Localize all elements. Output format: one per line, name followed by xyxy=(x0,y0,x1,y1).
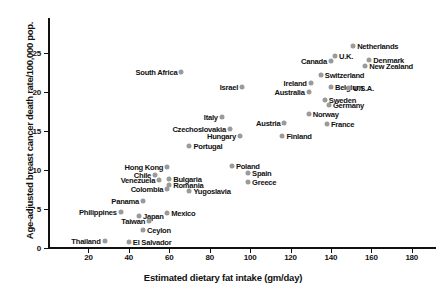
data-point xyxy=(328,59,333,64)
data-point-label: Switzerland xyxy=(325,71,364,80)
x-tick-label: 140 xyxy=(325,253,338,262)
data-point-label: Italy xyxy=(204,113,218,122)
data-point-label: Australia xyxy=(274,88,304,97)
x-tick-label: 120 xyxy=(284,253,297,262)
data-point-label: Philippines xyxy=(79,208,117,217)
data-point xyxy=(140,228,145,233)
data-point xyxy=(157,178,162,183)
data-point xyxy=(308,81,313,86)
data-point-label: Ireland xyxy=(284,79,307,88)
data-point xyxy=(187,188,192,193)
data-point xyxy=(165,210,170,215)
data-point xyxy=(229,163,234,168)
y-axis-line xyxy=(48,18,50,249)
data-point xyxy=(351,43,356,48)
data-point xyxy=(240,85,245,90)
x-tick-label: 40 xyxy=(125,253,134,262)
x-tick-label: 80 xyxy=(205,253,214,262)
data-point xyxy=(237,134,242,139)
data-point-label: Panama xyxy=(111,197,139,206)
data-point-label: Yugoslavia xyxy=(193,186,230,195)
data-point xyxy=(332,53,337,58)
data-point-label: Israel xyxy=(220,83,238,92)
data-point-label: Finland xyxy=(286,132,311,141)
data-point-label: Colombia xyxy=(131,184,164,193)
data-point xyxy=(118,210,123,215)
data-point-label: Portugal xyxy=(193,141,222,150)
data-point-label: Greece xyxy=(252,178,276,187)
data-point-label: South Africa xyxy=(136,68,178,77)
y-tick-mark xyxy=(44,53,48,54)
data-point-label: Mexico xyxy=(171,208,195,217)
data-point xyxy=(318,73,323,78)
data-point xyxy=(324,121,329,126)
data-point xyxy=(328,85,333,90)
data-point xyxy=(363,63,368,68)
y-tick-mark xyxy=(44,170,48,171)
data-point-label: Canada xyxy=(301,57,327,66)
x-tick-label: 20 xyxy=(84,253,93,262)
y-tick-mark xyxy=(44,131,48,132)
data-point xyxy=(322,97,327,102)
data-point-label: New Zealand xyxy=(369,61,413,70)
x-tick-label: 180 xyxy=(405,253,418,262)
data-point xyxy=(347,85,352,90)
data-point xyxy=(126,239,131,244)
x-axis-line xyxy=(48,247,436,249)
data-point-label: Norway xyxy=(313,110,339,119)
data-point-label: U.K. xyxy=(339,51,353,60)
y-tick-mark xyxy=(44,248,48,249)
data-point-label: Ceylon xyxy=(147,226,171,235)
data-point-label: Hungary xyxy=(207,132,236,141)
data-point-label: Spain xyxy=(252,168,271,177)
data-point-label: Germany xyxy=(333,100,364,109)
data-point xyxy=(187,143,192,148)
data-point-label: U.S.A. xyxy=(353,83,374,92)
data-point xyxy=(147,218,152,223)
x-tick-label: 160 xyxy=(365,253,378,262)
data-point xyxy=(167,177,172,182)
x-tick-label: 60 xyxy=(165,253,174,262)
data-point-label: Thailand xyxy=(71,236,100,245)
data-point xyxy=(326,102,331,107)
plot-area: 20406080100120140160180 0510152025 Nethe… xyxy=(0,0,446,295)
x-tick-label: 100 xyxy=(244,253,257,262)
data-point xyxy=(280,134,285,139)
data-point-label: El Salvador xyxy=(133,237,172,246)
data-point xyxy=(306,112,311,117)
data-point-label: France xyxy=(331,119,354,128)
data-point xyxy=(102,238,107,243)
scatter-chart: 20406080100120140160180 0510152025 Nethe… xyxy=(0,0,446,295)
y-tick-mark xyxy=(44,92,48,93)
data-point xyxy=(219,115,224,120)
data-point xyxy=(306,90,311,95)
data-point xyxy=(165,186,170,191)
y-tick-mark xyxy=(44,209,48,210)
data-point xyxy=(246,180,251,185)
data-point-label: Taiwan xyxy=(121,216,145,225)
data-point-label: Netherlands xyxy=(357,41,398,50)
data-point-label: Austria xyxy=(256,118,280,127)
data-point xyxy=(179,70,184,75)
data-point xyxy=(246,170,251,175)
data-point xyxy=(165,164,170,169)
x-axis-title: Estimated dietary fat intake (gm/day) xyxy=(0,272,446,283)
data-point xyxy=(282,120,287,125)
data-point xyxy=(140,199,145,204)
y-axis-title: Age-adjusted breast cancer death rate/10… xyxy=(24,6,35,256)
